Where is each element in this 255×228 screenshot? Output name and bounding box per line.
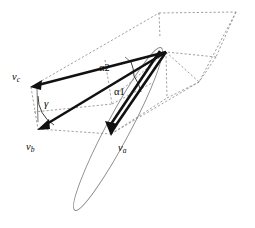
label-vector-vc: vc xyxy=(12,72,20,84)
dash-edge-inner-diagonal xyxy=(166,52,199,82)
dash-edge-mid-vertical xyxy=(166,52,167,98)
dash-edge-top-near xyxy=(166,52,216,57)
dash-edge-far-vertical xyxy=(159,13,160,38)
dash-edge-top-far xyxy=(159,12,236,13)
vector-diagram-svg xyxy=(0,0,255,228)
label-angle-gamma: γ xyxy=(44,98,48,109)
dash-edge-right-flank xyxy=(199,12,236,82)
label-angle-alpha2: α2 xyxy=(99,63,110,74)
label-vc-sub: c xyxy=(17,75,20,84)
label-vb-sub: b xyxy=(31,145,35,154)
gamma-vertical-ref xyxy=(37,88,38,122)
dash-edge-top-right xyxy=(216,12,236,57)
velocity-vectors xyxy=(30,51,166,136)
vector-vc-arrowhead xyxy=(30,80,42,90)
label-vector-vb: vb xyxy=(26,142,34,154)
vector-vb-arrowhead xyxy=(37,119,50,130)
figure-canvas: vc vb va α2 α1 γ xyxy=(0,0,255,228)
label-angle-alpha1: α1 xyxy=(114,87,125,98)
dash-edge-top-left xyxy=(31,13,159,87)
dash-edge-right-vertical xyxy=(199,57,216,82)
label-va-sub: a xyxy=(123,146,127,155)
dash-edge-bottom-left xyxy=(38,129,111,134)
label-vector-va: va xyxy=(118,143,126,155)
